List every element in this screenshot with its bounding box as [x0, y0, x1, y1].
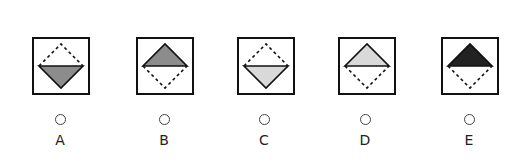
option-label: E [459, 131, 479, 149]
radio-button-e[interactable] [464, 114, 475, 125]
figure-box [441, 37, 499, 95]
diamond-top-half-black-icon [441, 37, 499, 95]
answer-option-e[interactable]: E [0, 0, 525, 163]
